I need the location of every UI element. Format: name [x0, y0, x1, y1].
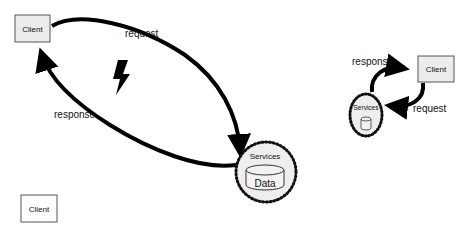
services-label: Services [250, 152, 281, 161]
services-label-right: Services [354, 104, 380, 111]
client-node-bottom[interactable]: Client [21, 195, 57, 222]
response-arrow-right [372, 67, 402, 92]
client-node-right[interactable]: Client [418, 56, 454, 82]
request-label-right: request [413, 103, 447, 114]
request-label: request [125, 28, 159, 39]
response-label: response [54, 109, 96, 120]
left-diagram: Client request response Services Data [15, 15, 296, 202]
response-label-right: response [352, 56, 394, 67]
client-label: Client [22, 25, 43, 34]
services-node[interactable]: Services Data [236, 142, 296, 202]
data-label: Data [254, 178, 276, 189]
request-arrow [52, 19, 240, 150]
right-diagram: response request Client Services [350, 56, 454, 136]
services-node-right[interactable]: Services [350, 94, 382, 136]
client-label-right: Client [426, 65, 447, 74]
lightning-icon [113, 60, 130, 95]
client-label-bottom: Client [29, 205, 50, 214]
database-icon-right [361, 117, 371, 130]
client-node[interactable]: Client [15, 15, 50, 42]
